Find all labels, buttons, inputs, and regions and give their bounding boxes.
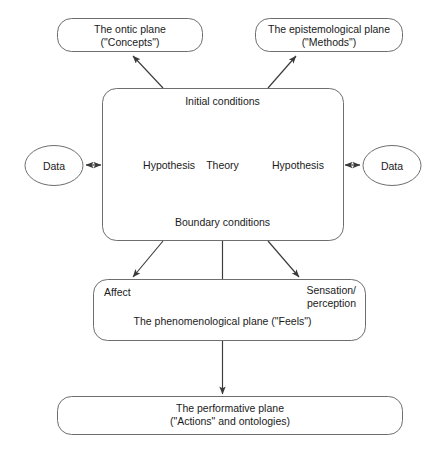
data-right-label: Data (381, 160, 403, 172)
performative-plane-label-line2: ("Actions" and ontologies) (170, 415, 290, 427)
epistemological-plane-label-line2: ("Methods") (302, 36, 357, 48)
ontic-plane-label-line2: ("Concepts") (101, 36, 160, 48)
phenomenological-plane-label: The phenomenological plane ("Feels") (134, 315, 312, 327)
performative-plane-label-line1: The performative plane (176, 402, 284, 414)
node-epistemological-plane[interactable]: The epistemological plane ("Methods") (256, 19, 403, 52)
node-phenomenological-plane[interactable]: Affect Sensation/ perception The phenome… (94, 280, 366, 341)
node-data-left[interactable]: Data (25, 146, 83, 186)
epistemological-plane-label-line1: The epistemological plane (268, 23, 390, 35)
edge-main-box-to-epistemological-plane (268, 56, 296, 88)
edge-main-box-to-ontic-plane (133, 56, 163, 88)
boundary-conditions-label: Boundary conditions (175, 216, 270, 228)
hypothesis-left-label: Hypothesis (143, 159, 195, 171)
node-data-right[interactable]: Data (363, 146, 421, 186)
edge-main-box-to-sensation-perception (268, 241, 299, 277)
theory-label: Theory (206, 159, 239, 171)
edge-main-box-to-affect (133, 241, 163, 277)
node-performative-plane[interactable]: The performative plane ("Actions" and on… (58, 397, 403, 435)
sensation-perception-label-line1: Sensation/ (306, 284, 356, 296)
data-left-label: Data (43, 160, 65, 172)
initial-conditions-label: Initial conditions (185, 95, 260, 107)
diagram-canvas: The ontic plane ("Concepts") The epistem… (0, 0, 440, 449)
hypothesis-right-label: Hypothesis (272, 159, 324, 171)
sensation-perception-label-line2: perception (307, 297, 356, 309)
ontic-plane-label-line1: The ontic plane (94, 23, 166, 35)
affect-label: Affect (104, 286, 131, 298)
node-ontic-plane[interactable]: The ontic plane ("Concepts") (58, 19, 203, 52)
planes-of-inquiry-diagram: The ontic plane ("Concepts") The epistem… (0, 0, 440, 449)
